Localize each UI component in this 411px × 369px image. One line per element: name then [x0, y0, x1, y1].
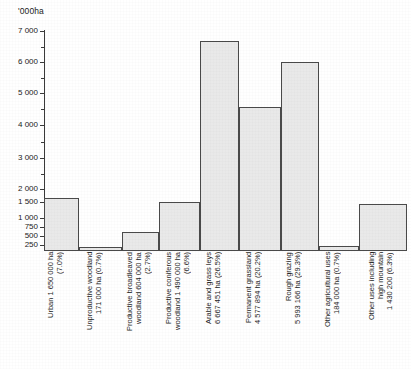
bar-unproductive-woodland	[79, 247, 122, 251]
bar-other-agricultural-uses	[319, 246, 359, 251]
x-label-other-uses-including-high-mountain: Other uses including high mountain 1 430…	[367, 252, 399, 367]
x-label-productive-broadleaved-woodland: Productive broadleaved woodland 604 000 …	[125, 252, 157, 367]
x-axis-category-labels: Urban 1 650 000 ha (7.0%)Unproductive wo…	[0, 252, 411, 369]
bar-permanent-grassland	[239, 107, 281, 251]
bar-other-uses-including-high-mountain	[359, 204, 407, 251]
bar-productive-coniferous-woodland	[159, 202, 200, 251]
bar-rough-grazing	[281, 62, 319, 251]
x-label-arable-and-grass-leys: Arable and grass leys 6 667 451 ha (26.5…	[204, 252, 236, 367]
x-label-permanent-grassland: Permanent grassland 4 577 894 ha (20.2%)	[244, 252, 276, 367]
land-use-bar-chart: '000ha 2505007501 0001 5002 0003 0004 00…	[0, 0, 411, 369]
x-label-other-agricultural-uses: Other agricultural uses 184 000 ha (0.7%…	[323, 252, 355, 367]
x-label-productive-coniferous-woodland: Productive coniferous woodland 1 490 000…	[164, 252, 196, 367]
x-label-rough-grazing: Rough grazing 5 993 166 ha (29.3%)	[284, 252, 316, 367]
bar-productive-broadleaved-woodland	[122, 232, 159, 251]
bar-arable-and-grass-leys	[200, 41, 239, 251]
x-label-urban: Urban 1 650 000 ha (7.0%)	[46, 252, 78, 367]
bar-urban	[44, 198, 79, 251]
x-label-unproductive-woodland: Unproductive woodland 171 000 ha (0.7%)	[85, 252, 117, 367]
